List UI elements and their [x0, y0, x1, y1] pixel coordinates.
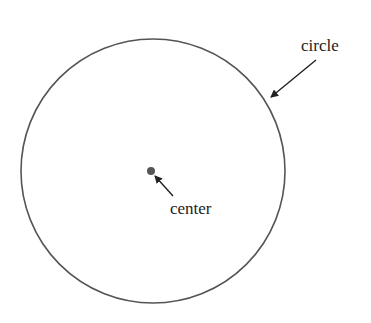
circle-label: circle — [301, 36, 339, 55]
center-label: center — [170, 199, 212, 218]
circle-diagram: circle center — [0, 0, 371, 323]
center-label-arrow — [155, 176, 173, 196]
center-point — [147, 167, 155, 175]
circle-label-arrow — [271, 60, 316, 97]
